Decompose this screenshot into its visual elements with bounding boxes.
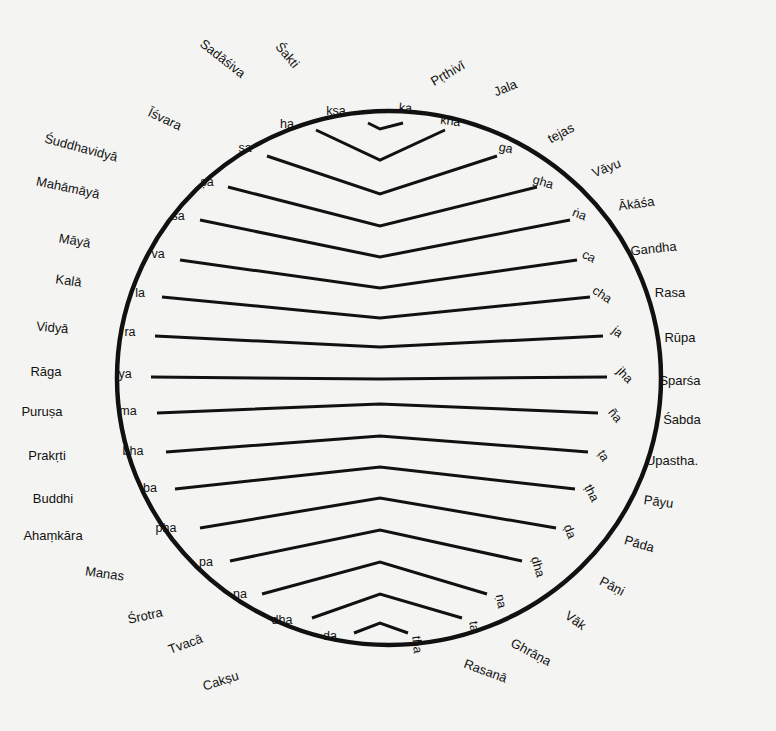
tattva-label: Śrotra: [126, 604, 164, 626]
chevron-line: [151, 377, 607, 379]
letter-label-right: ḍa: [561, 522, 579, 540]
tattva-label: Rasanā: [462, 656, 510, 686]
letter-label-left: ra: [124, 325, 135, 339]
chevron-line: [162, 297, 590, 318]
tattva-label: Vidyā: [36, 319, 70, 337]
tattva-label: Rūpa: [664, 330, 696, 345]
tattva-label: Sparśa: [659, 373, 701, 388]
letter-label-left: ma: [119, 404, 136, 418]
letter-label-left: la: [135, 286, 145, 300]
letter-label-left: śa: [171, 209, 184, 223]
tattva-label: Jala: [491, 76, 519, 99]
tattva-label: Ahaṃkāra: [23, 528, 83, 543]
chevron-line: [175, 467, 575, 489]
chevron-line: [267, 156, 497, 194]
tattva-label: Puruṣa: [21, 404, 63, 419]
chevron-line: [155, 336, 603, 347]
letter-label-right: ṇa: [493, 593, 509, 609]
letter-label-left: pa: [199, 555, 213, 569]
letter-label-left: ṣa: [200, 175, 213, 189]
tattva-label: Pṛthivī: [428, 57, 468, 89]
letter-label-left: kṣa: [326, 104, 346, 118]
tattva-label: Upastha.: [646, 453, 698, 468]
chevron-line: [354, 623, 408, 633]
letter-label-left: ya: [118, 367, 131, 381]
tattva-label: Manas: [84, 563, 125, 583]
chevron-line: [262, 562, 487, 594]
letter-label-left: da: [323, 629, 337, 643]
tattva-label: Māyā: [58, 230, 93, 250]
chevron-line: [368, 123, 403, 129]
tattva-label: Śuddhavidyā: [43, 131, 120, 165]
tattva-label: Pāṇi: [597, 573, 627, 599]
tattva-label: Pāyu: [643, 492, 674, 511]
letter-label-right: ga: [498, 140, 514, 156]
tattva-label: Pāda: [623, 532, 657, 555]
letter-label-left: pha: [156, 521, 177, 535]
letter-label-right: ḍha: [528, 555, 547, 579]
chevron-line: [157, 404, 598, 413]
tattva-label: Gandha: [630, 239, 678, 259]
tattva-labels-group: SadāśivaŚaktiPṛthivīJalatejasVāyuĀkāśaGa…: [21, 36, 701, 693]
letter-label-right: cha: [590, 283, 615, 306]
letter-label-right: ña: [605, 406, 625, 426]
letter-label-right: ca: [580, 247, 598, 266]
letter-label-right: jha: [613, 364, 635, 386]
chevron-line: [316, 130, 445, 160]
tattva-label: Sadāśiva: [197, 36, 249, 81]
letter-label-right: ta: [466, 620, 481, 632]
tattva-label: Vāk: [562, 608, 589, 634]
tattva-label: Rasa: [655, 285, 686, 300]
tattva-label: Ākāśa: [617, 193, 656, 213]
letter-label-left: sa: [238, 141, 251, 155]
letter-label-right: ka: [398, 100, 412, 115]
chevron-line: [166, 436, 588, 452]
tattva-label: Prakṛti: [28, 448, 66, 463]
letter-label-left: ha: [280, 117, 294, 131]
letter-label-right: kha: [440, 113, 462, 129]
chevron-line: [230, 530, 522, 561]
chevron-line: [312, 594, 462, 618]
tattva-label: Tvacā: [166, 630, 205, 656]
letter-label-left: va: [151, 247, 164, 261]
letter-label-left: ba: [143, 481, 157, 495]
tattva-label: Śabda: [663, 412, 701, 427]
letter-label-left: dha: [272, 613, 293, 627]
tattva-label: Kalā: [55, 271, 84, 290]
tattva-letter-circle-diagram: kṣakahakhasagaṣaghaśaṅavacalacharajayajh…: [0, 0, 776, 731]
letter-label-right: ṭa: [595, 448, 612, 464]
letter-label-right: ṅa: [570, 205, 588, 223]
letter-label-right: ṭha: [581, 482, 601, 504]
chevron-line: [180, 260, 577, 288]
letter-label-left: bha: [123, 444, 144, 458]
tattva-label: Mahāmāyā: [35, 174, 102, 202]
letter-label-right: ja: [609, 323, 626, 341]
tattva-label: Buddhi: [33, 491, 74, 506]
tattva-label: Ghrāṇa: [508, 635, 554, 669]
tattva-label: Īśvara: [146, 105, 185, 134]
tattva-label: Śakti: [272, 39, 302, 71]
chevron-line: [200, 498, 556, 528]
tattva-label: tejas: [545, 120, 577, 146]
tattva-label: Cakṣu: [201, 668, 241, 694]
tattva-label: Rāga: [30, 364, 62, 379]
tattva-label: Vāyu: [590, 155, 623, 180]
letter-label-left: na: [233, 587, 247, 601]
letter-label-right: tha: [409, 635, 424, 654]
